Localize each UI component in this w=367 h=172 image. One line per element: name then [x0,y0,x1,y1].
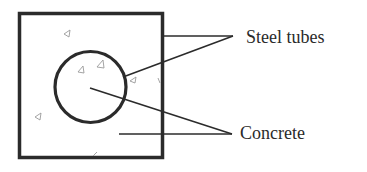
aggregate-triangle-icon [35,113,41,120]
inner-circular-tube [55,52,126,123]
concrete-label: Concrete [240,124,305,142]
outer-square-tube [20,14,163,158]
aggregate-triangle-icon [78,66,84,73]
cross-section-diagram [0,0,367,172]
aggregate-triangle-icon [97,60,104,68]
aggregate-mark [93,152,97,156]
steel-tubes-label: Steel tubes [246,28,325,46]
leader-line-inner-tube [123,36,233,77]
aggregate-triangle-icon [64,30,70,37]
aggregate-texture [35,30,160,156]
aggregate-mark [158,78,160,83]
aggregate-triangle-icon [130,77,136,83]
steel-tubes-leaders [123,36,233,77]
